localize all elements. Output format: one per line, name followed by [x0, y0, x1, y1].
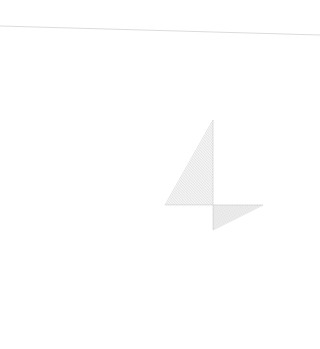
string-art-upper-left	[165, 120, 213, 205]
string-line	[213, 205, 258, 228]
string-line	[178, 143, 213, 205]
string-line	[213, 205, 218, 208]
top-divider-line	[0, 26, 320, 35]
string-line	[189, 163, 213, 206]
string-line	[179, 146, 213, 206]
string-line	[173, 134, 213, 205]
string-line	[184, 154, 213, 205]
string-line	[205, 191, 213, 205]
string-line	[213, 205, 261, 229]
string-art-lower-right	[213, 205, 263, 230]
string-art-canvas	[0, 0, 320, 349]
string-line	[183, 151, 213, 205]
string-line	[210, 199, 213, 205]
